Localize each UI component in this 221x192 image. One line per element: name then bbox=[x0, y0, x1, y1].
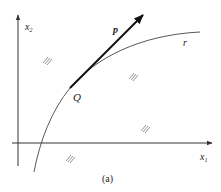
diagram-figure: x2 x1 r p Q (a) bbox=[0, 0, 221, 192]
hatch-mark bbox=[66, 155, 75, 163]
hatch-mark bbox=[129, 73, 138, 81]
point-label: Q bbox=[73, 91, 81, 103]
x-axis-label: x1 bbox=[199, 151, 207, 163]
figure-caption: (a) bbox=[102, 173, 113, 185]
hatch-mark bbox=[43, 57, 52, 65]
hatch-mark bbox=[141, 125, 150, 133]
y-axis-label: x2 bbox=[24, 21, 32, 33]
curve-label: r bbox=[183, 37, 187, 48]
curve-r bbox=[34, 32, 200, 172]
vector-label: p bbox=[112, 24, 118, 35]
vector-p bbox=[70, 15, 143, 88]
